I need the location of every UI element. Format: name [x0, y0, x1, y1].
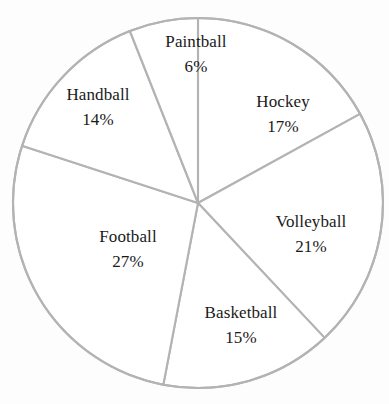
- pie-label-volleyball-value: 21%: [276, 238, 347, 258]
- pie-label-volleyball: Volleyball 21%: [276, 212, 347, 257]
- pie-label-football-value: 27%: [99, 253, 156, 273]
- pie-label-basketball-name: Basketball: [205, 303, 278, 323]
- pie-label-basketball-value: 15%: [205, 329, 278, 349]
- pie-label-hockey-name: Hockey: [256, 92, 309, 112]
- pie-label-volleyball-name: Volleyball: [276, 212, 347, 232]
- pie-label-handball: Handball 14%: [66, 85, 129, 130]
- pie-label-hockey: Hockey 17%: [256, 92, 309, 137]
- pie-label-paintball: Paintball 6%: [165, 32, 226, 77]
- pie-chart: Paintball 6% Handball 14% Hockey 17% Vol…: [0, 0, 389, 404]
- pie-label-handball-value: 14%: [66, 111, 129, 131]
- pie-label-football: Football 27%: [99, 227, 156, 272]
- pie-label-paintball-value: 6%: [165, 58, 226, 78]
- pie-label-hockey-value: 17%: [256, 118, 309, 138]
- pie-label-paintball-name: Paintball: [165, 32, 226, 52]
- pie-label-handball-name: Handball: [66, 85, 129, 105]
- pie-label-football-name: Football: [99, 227, 156, 247]
- pie-label-basketball: Basketball 15%: [205, 303, 278, 348]
